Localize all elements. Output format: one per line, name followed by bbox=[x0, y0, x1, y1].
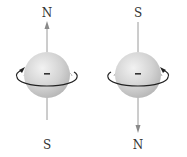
rotation-arrow-icon bbox=[19, 67, 25, 73]
bottom-pole-label: N bbox=[133, 138, 144, 152]
arrow-down-icon bbox=[136, 125, 141, 133]
particle-left: N S bbox=[16, 6, 77, 152]
sphere bbox=[24, 52, 70, 98]
spin-diagram: N S S N bbox=[0, 0, 187, 157]
minus-sign-icon bbox=[135, 73, 141, 75]
sphere bbox=[115, 52, 161, 98]
minus-sign-icon bbox=[44, 73, 50, 75]
top-pole-label: S bbox=[134, 6, 142, 20]
rotation-arrow-icon bbox=[160, 67, 166, 73]
top-pole-label: N bbox=[42, 6, 53, 20]
arrow-up-icon bbox=[45, 21, 50, 29]
particle-right: S N bbox=[108, 6, 169, 152]
bottom-pole-label: S bbox=[43, 138, 51, 152]
